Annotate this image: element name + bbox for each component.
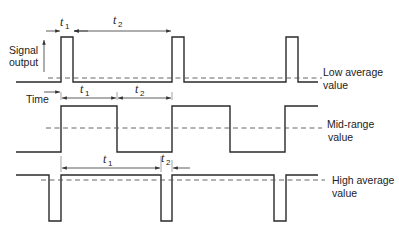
waveform-mid-range bbox=[16, 106, 322, 152]
svg-text:1: 1 bbox=[65, 22, 70, 31]
svg-text:2: 2 bbox=[118, 20, 123, 29]
label-high-average-line1: High average bbox=[332, 174, 395, 186]
label-low-average-line1: Low average bbox=[323, 66, 383, 78]
dimension-t1-row1: t 1 bbox=[46, 15, 88, 31]
svg-text:t: t bbox=[103, 152, 107, 166]
dimension-t2-row3: t 2 bbox=[161, 151, 190, 172]
time-label: Time bbox=[26, 93, 49, 105]
dimension-t2-row1: t 2 bbox=[74, 13, 171, 31]
svg-text:1: 1 bbox=[108, 159, 113, 168]
label-mid-range-line2: value bbox=[328, 131, 353, 143]
label-mid-range-line1: Mid-range bbox=[327, 118, 374, 130]
signal-label-line2: output bbox=[9, 56, 38, 68]
svg-text:2: 2 bbox=[166, 158, 171, 167]
label-low-average-line2: value bbox=[323, 79, 348, 91]
waveform-low-average bbox=[16, 37, 322, 82]
pulse-width-diagram: Signal output Time t 1 t 2 t 1 t 2 bbox=[0, 0, 399, 236]
dimension-t2-row2: t 2 bbox=[118, 82, 171, 98]
svg-text:1: 1 bbox=[85, 89, 90, 98]
svg-text:t: t bbox=[161, 151, 165, 165]
svg-text:t: t bbox=[135, 82, 139, 96]
svg-text:t: t bbox=[113, 13, 117, 27]
svg-text:2: 2 bbox=[140, 89, 145, 98]
svg-text:t: t bbox=[60, 15, 64, 29]
dimension-t1-row3: t 1 bbox=[61, 152, 161, 172]
svg-text:t: t bbox=[80, 82, 84, 96]
waveform-high-average bbox=[16, 175, 325, 221]
signal-label-line1: Signal bbox=[9, 44, 38, 56]
dimension-t1-row2: t 1 bbox=[61, 82, 172, 100]
label-high-average-line2: value bbox=[332, 187, 357, 199]
